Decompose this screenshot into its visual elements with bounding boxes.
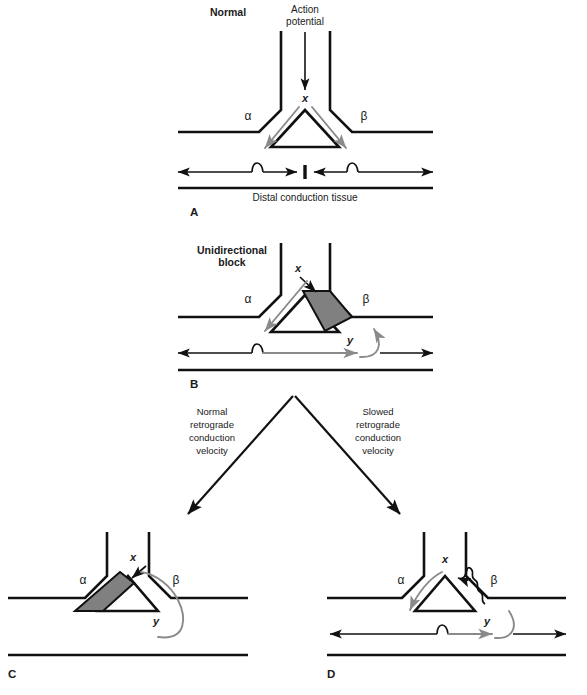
panel-d-alpha-label: α: [398, 573, 405, 587]
panel-c-site-x-label: x: [129, 551, 137, 563]
panel-c-letter: C: [8, 668, 16, 680]
branch-left-label-line2: retrograde: [190, 419, 234, 430]
panel-d-site-x-label: x: [441, 553, 449, 565]
reentry-circuit-figure: Normal Action potential x α β Distal con…: [0, 0, 587, 695]
canvas-background: [0, 0, 587, 695]
branch-left-label-line4: velocity: [196, 445, 228, 456]
panel-a-site-x-label: x: [301, 92, 309, 104]
branch-right-label-line1: Slowed: [362, 406, 393, 417]
panel-a-title: Normal: [210, 6, 246, 18]
panel-b-site-x-label: x: [294, 262, 302, 274]
panel-a-tissue-caption: Distal conduction tissue: [252, 192, 357, 203]
branch-right-label-line3: conduction: [355, 432, 401, 443]
panel-a-beta-label: β: [361, 109, 368, 123]
panel-d-site-y-label: y: [483, 615, 491, 627]
figure-root: Normal Action potential x α β Distal con…: [0, 0, 587, 695]
panel-c-site-y-label: y: [152, 615, 160, 627]
branch-right-label-line4: velocity: [362, 445, 394, 456]
branch-right-label-line2: retrograde: [356, 419, 400, 430]
panel-d-letter: D: [327, 668, 335, 680]
panel-a-letter: A: [190, 206, 198, 218]
panel-a-stimulus-label-line1: Action: [291, 4, 319, 15]
branch-left-label-line3: conduction: [189, 432, 235, 443]
panel-b-title-line1: Unidirectional: [197, 244, 267, 256]
branch-left-label-line1: Normal: [197, 406, 228, 417]
panel-b-alpha-label: α: [245, 292, 252, 306]
panel-b-site-y-label: y: [346, 334, 354, 346]
panel-c-beta-label: β: [173, 573, 180, 587]
panel-d-beta-label: β: [491, 573, 498, 587]
panel-b-beta-label: β: [363, 292, 370, 306]
panel-c-alpha-label: α: [80, 573, 87, 587]
panel-a-stimulus-label-line2: potential: [286, 16, 324, 27]
panel-a-alpha-label: α: [245, 109, 252, 123]
panel-b-letter: B: [190, 378, 198, 390]
panel-b-title-line2: block: [218, 256, 246, 268]
